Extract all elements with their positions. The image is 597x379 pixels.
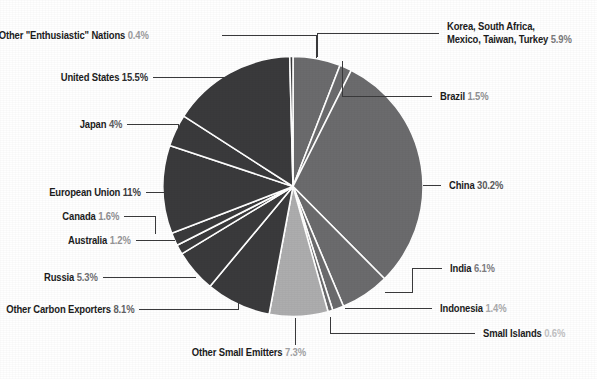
label-canada: Canada 1.6% [62, 210, 119, 223]
label-japan-pct: 4% [109, 118, 122, 130]
label-brazil-name: Brazil [440, 90, 465, 102]
label-united-states: United States 15.5% [61, 71, 148, 84]
label-other-carbon-exporters-name: Other Carbon Exporters [6, 303, 111, 315]
label-japan-name: Japan [79, 118, 106, 130]
label-indonesia-name: Indonesia [440, 302, 483, 314]
label-korea-group-pct: 5.9% [551, 33, 572, 45]
label-india: India 6.1% [450, 262, 495, 275]
label-korea-group-line2-wrap: Mexico, Taiwan, Turkey 5.9% [447, 33, 572, 46]
label-other-carbon-exporters-pct: 8.1% [113, 303, 134, 315]
label-other-small-emitters-pct: 7.3% [285, 346, 306, 358]
label-european-union: European Union 11% [49, 186, 141, 199]
label-india-name: India [450, 262, 471, 274]
label-russia-pct: 5.3% [77, 271, 98, 283]
label-korea-group: Korea, South Africa, Mexico, Taiwan, Tur… [447, 20, 572, 45]
label-small-islands-pct: 0.6% [544, 327, 565, 339]
label-small-islands-name: Small Islands [483, 327, 542, 339]
label-china-pct: 30.2% [477, 179, 503, 191]
label-canada-pct: 1.6% [98, 210, 119, 222]
leader-line-other-carbon-exporters [139, 300, 238, 309]
leader-line-japan [127, 124, 178, 139]
label-canada-name: Canada [62, 210, 95, 222]
leader-line-canada [124, 216, 155, 234]
label-other-enthusiastic-nations-name: Other "Enthusiastic" Nations [0, 29, 125, 41]
label-united-states-pct: 15.5% [122, 71, 148, 83]
label-china: China 30.2% [449, 179, 503, 192]
label-other-small-emitters-name: Other Small Emitters [192, 346, 283, 358]
label-korea-group-line1: Korea, South Africa, [447, 20, 572, 33]
label-brazil: Brazil 1.5% [440, 90, 488, 103]
label-china-name: China [449, 179, 475, 191]
label-european-union-name: European Union [49, 186, 120, 198]
label-korea-group-line2: Mexico, Taiwan, Turkey [447, 33, 548, 45]
label-japan: Japan 4% [79, 118, 122, 131]
label-india-pct: 6.1% [474, 262, 495, 274]
leader-line-brazil [342, 61, 432, 96]
label-brazil-pct: 1.5% [467, 90, 488, 102]
label-australia-pct: 1.2% [110, 234, 131, 246]
leader-line-india [385, 268, 442, 292]
label-small-islands: Small Islands 0.6% [483, 327, 565, 340]
label-indonesia: Indonesia 1.4% [440, 302, 506, 315]
label-other-enthusiastic-nations-pct: 0.4% [128, 29, 149, 41]
label-united-states-name: United States [61, 71, 120, 83]
label-other-small-emitters: Other Small Emitters 7.3% [192, 346, 306, 359]
label-russia-name: Russia [44, 271, 74, 283]
pie-chart-figure: Other "Enthusiastic" Nations 0.4% United… [0, 0, 597, 379]
label-australia: Australia 1.2% [68, 234, 131, 247]
label-european-union-pct: 11% [123, 186, 141, 198]
label-other-carbon-exporters: Other Carbon Exporters 8.1% [6, 303, 134, 316]
label-indonesia-pct: 1.4% [485, 302, 506, 314]
label-russia: Russia 5.3% [44, 271, 98, 284]
label-australia-name: Australia [68, 234, 107, 246]
leader-line-other-enthusiastic [222, 35, 316, 58]
label-other-enthusiastic-nations: Other "Enthusiastic" Nations 0.4% [0, 29, 149, 42]
